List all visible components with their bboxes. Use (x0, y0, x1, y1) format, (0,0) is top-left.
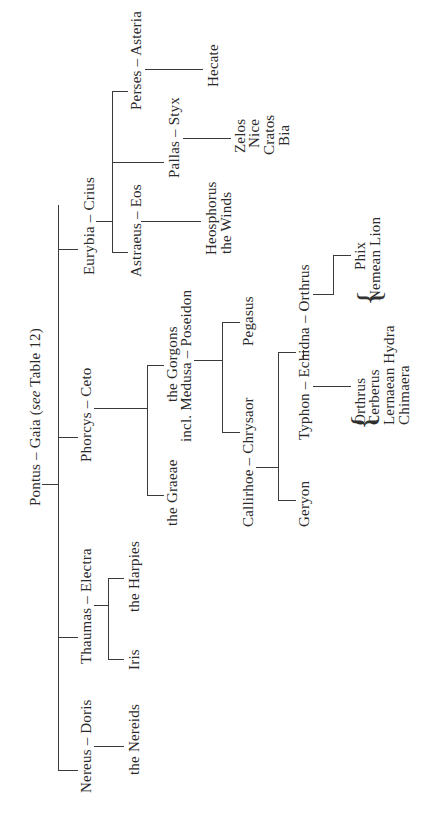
nereus-to-nereids (94, 746, 124, 747)
to-typhon (278, 352, 296, 353)
branch-thaumas (58, 637, 78, 638)
root-note-see: see (27, 390, 43, 410)
node-phix: Phix (352, 242, 368, 270)
node-perses-asteria: Perses – Asteria (128, 11, 144, 110)
node-heosphorus: Heosphorus (203, 181, 219, 255)
astraeus-connector (141, 221, 201, 222)
trunk-line (58, 205, 59, 771)
to-pegasus (222, 322, 240, 323)
node-lernaean-hydra: Lernaean Hydra (381, 325, 397, 425)
node-typhon-echidna-orthrus: Typhon – Echidna – Orthrus (296, 264, 312, 440)
branch-eurybia (58, 249, 78, 250)
medusa-children-line (222, 322, 223, 432)
callirhoe-children-line (278, 352, 279, 500)
node-geryon: Geryon (296, 481, 312, 527)
node-pallas-styx: Pallas – Styx (166, 97, 182, 178)
to-callirhoe (222, 432, 240, 433)
root-label: Pontus – Gaia (see Table 12) (27, 328, 43, 506)
to-gorgons (147, 365, 164, 366)
medusa-connector (194, 360, 222, 361)
node-harpies: the Harpies (126, 541, 142, 612)
node-nemean-lion: Nemean Lion (367, 217, 383, 301)
typhon-connector (313, 386, 351, 387)
callirhoe-connector (256, 467, 278, 468)
node-nice: Nice (246, 119, 262, 148)
node-winds: the Winds (218, 192, 234, 254)
to-harpies (108, 578, 124, 579)
orthrus-children-line (333, 255, 334, 295)
pallas-connector (183, 138, 231, 139)
node-bia: Bia (276, 125, 292, 146)
phorcys-connector (94, 408, 147, 409)
node-medusa-poseidon: incl. Medusa – Poseidon (178, 290, 194, 442)
node-nereids: the Nereids (126, 704, 142, 775)
to-pallas (112, 162, 164, 163)
node-hecate: Hecate (205, 44, 221, 87)
to-iris (108, 659, 124, 660)
node-nereus-doris: Nereus – Doris (78, 699, 94, 793)
thaumas-connector (94, 605, 108, 606)
eurybia-children-line (112, 91, 113, 253)
node-cratos: Cratos (261, 115, 277, 155)
branch-phorcys (58, 437, 78, 438)
branch-nereus (58, 770, 78, 771)
eurybia-connector (96, 221, 112, 222)
node-cerberus: Cerberus (366, 369, 382, 425)
root-note-rest: Table 12) (27, 328, 43, 390)
thaumas-children-line (108, 578, 109, 659)
perses-connector (145, 69, 203, 70)
node-chimaera: Chimaera (396, 365, 412, 425)
root-note-open: ( (27, 410, 43, 415)
node-callirhoe-chrysaor: Callirhoe – Chrysaor (240, 397, 256, 527)
node-pegasus: Pegasus (240, 296, 256, 346)
node-iris: Iris (126, 649, 142, 670)
to-geryon (278, 500, 296, 501)
root-couple: Pontus – Gaia (27, 419, 43, 506)
to-astraeus (112, 252, 128, 253)
orthrus-connector (313, 294, 333, 295)
node-eurybia-crius: Eurybia – Crius (81, 177, 97, 275)
to-graeae (147, 495, 164, 496)
to-phix (333, 255, 351, 256)
phorcys-children-line (147, 365, 148, 495)
node-phorcys-ceto: Phorcys – Ceto (78, 368, 94, 462)
node-astraeus-eos: Astraeus – Eos (128, 184, 144, 277)
node-graeae: the Graeae (164, 459, 180, 526)
to-perses (112, 91, 128, 92)
root-connector (42, 484, 59, 485)
node-thaumas-electra: Thaumas – Electra (78, 548, 94, 664)
